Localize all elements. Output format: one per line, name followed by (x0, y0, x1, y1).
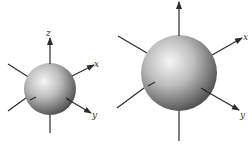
y-axis-label: y (91, 110, 98, 120)
y-axis-negative (117, 85, 148, 108)
x-axis-arrow (72, 65, 94, 76)
x-axis-label: x (94, 59, 99, 69)
x-axis-arrow (212, 38, 242, 55)
large-sphere (141, 35, 217, 111)
x-axis-negative (118, 36, 147, 53)
x-axis-negative (8, 64, 30, 78)
y-axis-label: y (239, 110, 246, 120)
orbital-diagram: z x y x y (0, 0, 252, 149)
y-axis-arrow (67, 99, 91, 113)
z-axis-label: z (45, 28, 51, 38)
x-axis-label: x (243, 32, 248, 42)
small-sphere (24, 63, 76, 115)
small-sphere-panel: z x y (8, 28, 99, 133)
y-axis-arrow (204, 90, 239, 110)
large-sphere-panel: x y (117, 2, 248, 141)
